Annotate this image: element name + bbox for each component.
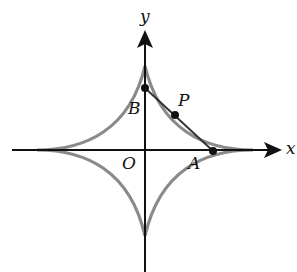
point-a [209, 147, 217, 155]
x-axis-label: x [286, 140, 296, 157]
y-axis-label: y [140, 8, 150, 25]
point-p-label: P [178, 92, 189, 109]
point-b [141, 84, 149, 92]
diagram-graphic [0, 0, 297, 272]
point-p [171, 111, 179, 119]
astroid-diagram: y x O A B P [0, 0, 297, 272]
point-a-label: A [188, 155, 200, 172]
origin-label: O [122, 155, 136, 172]
point-b-label: B [128, 100, 141, 117]
